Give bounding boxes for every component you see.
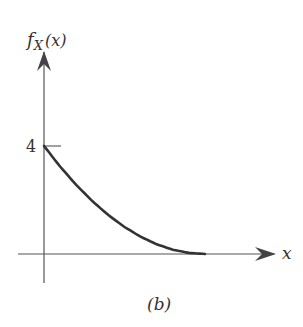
- y-tick-label: 4: [26, 137, 36, 156]
- density-curve: [44, 146, 205, 254]
- x-axis-label: x: [282, 243, 292, 263]
- chart-canvas: 4 fX(x) x (b): [0, 0, 303, 327]
- figure-caption: (b): [147, 294, 171, 314]
- y-axis-label: fX(x): [25, 29, 66, 53]
- figure: 4 fX(x) x (b): [0, 0, 303, 327]
